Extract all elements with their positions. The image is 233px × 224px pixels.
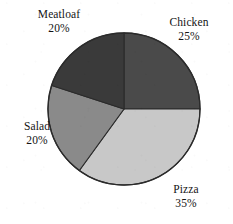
pie-chart: Meatloaf 20% Chicken 25% Salad 20% Pizza… [0,0,233,224]
pie-label-salad: Salad 20% [4,120,70,147]
pie-label-chicken-name: Chicken [150,16,228,30]
pie-label-salad-value: 20% [4,134,70,148]
pie-label-meatloaf-name: Meatloaf [16,8,102,22]
pie-label-pizza: Pizza 35% [150,183,222,210]
pie-label-salad-name: Salad [4,120,70,134]
pie-label-chicken-value: 25% [150,30,228,44]
pie-label-meatloaf: Meatloaf 20% [16,8,102,35]
pie-label-chicken: Chicken 25% [150,16,228,43]
pie-label-pizza-name: Pizza [150,183,222,197]
pie-slice-chicken[interactable] [124,33,200,109]
pie-label-meatloaf-value: 20% [16,22,102,36]
pie-label-pizza-value: 35% [150,197,222,211]
